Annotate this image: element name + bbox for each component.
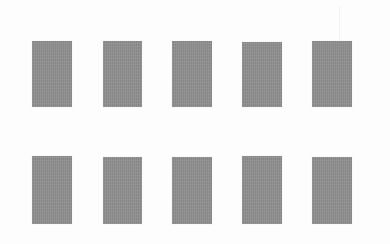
gray-rectangle xyxy=(242,42,282,107)
image-canvas xyxy=(0,0,390,244)
scan-streak-artifact xyxy=(339,6,340,42)
gray-rectangle xyxy=(172,41,212,107)
gray-rectangle xyxy=(312,157,352,224)
gray-rectangle xyxy=(103,157,142,224)
gray-rectangle xyxy=(312,41,352,107)
gray-rectangle xyxy=(172,157,212,224)
gray-rectangle xyxy=(32,41,72,107)
gray-rectangle xyxy=(103,41,142,107)
gray-rectangle xyxy=(242,156,282,224)
gray-rectangle xyxy=(32,156,72,224)
